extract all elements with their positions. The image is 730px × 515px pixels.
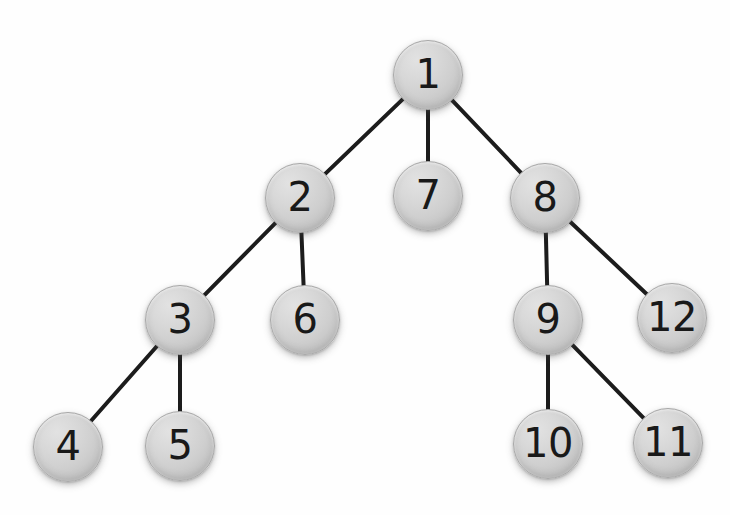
- tree-node-layer: 123456789101112: [0, 0, 730, 515]
- tree-node-label-4: 4: [56, 426, 81, 466]
- tree-node-12[interactable]: 12: [637, 283, 707, 353]
- tree-node-1[interactable]: 1: [393, 40, 463, 110]
- tree-node-8[interactable]: 8: [510, 163, 580, 233]
- tree-node-2[interactable]: 2: [265, 163, 335, 233]
- tree-node-label-10: 10: [523, 423, 573, 463]
- tree-node-label-12: 12: [647, 297, 697, 337]
- tree-node-label-11: 11: [643, 422, 693, 462]
- tree-node-label-6: 6: [293, 299, 318, 339]
- tree-node-7[interactable]: 7: [393, 161, 463, 231]
- tree-diagram-canvas: 123456789101112: [0, 0, 730, 515]
- tree-node-label-3: 3: [168, 299, 193, 339]
- tree-node-6[interactable]: 6: [270, 285, 340, 355]
- tree-node-label-9: 9: [536, 299, 561, 339]
- tree-node-10[interactable]: 10: [513, 409, 583, 479]
- tree-node-9[interactable]: 9: [513, 285, 583, 355]
- tree-node-label-8: 8: [533, 177, 558, 217]
- tree-node-5[interactable]: 5: [145, 411, 215, 481]
- tree-node-11[interactable]: 11: [633, 408, 703, 478]
- tree-node-4[interactable]: 4: [33, 412, 103, 482]
- tree-node-label-5: 5: [168, 425, 193, 465]
- tree-node-label-2: 2: [288, 177, 313, 217]
- tree-node-label-1: 1: [416, 54, 441, 94]
- tree-node-3[interactable]: 3: [145, 285, 215, 355]
- tree-node-label-7: 7: [416, 175, 441, 215]
